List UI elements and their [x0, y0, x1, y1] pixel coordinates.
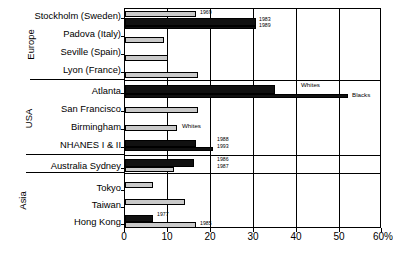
gridline-30 [253, 9, 254, 227]
bar-atlanta-whites [125, 85, 275, 94]
category-label-hong-kong: Hong Kong [74, 217, 121, 227]
annotation-birmingham-whites: Whites [182, 123, 201, 129]
bar-stockholm-1983 [125, 18, 256, 26]
bar-sydney-1987 [125, 167, 174, 172]
bar-tokyo [125, 182, 153, 188]
xtick-label-40: 40 [290, 231, 301, 242]
group-label-usa: USA [23, 84, 34, 154]
xtick-label-50: 50 [333, 231, 344, 242]
group-label-europe: Europe [25, 5, 36, 85]
bar-stockholm-1969 [125, 11, 196, 17]
annotation-stockholm-1969: 1969 [200, 10, 212, 16]
bar-taiwan [125, 199, 185, 205]
category-label-tokyo: Tokyo [97, 183, 122, 193]
bar-hong-kong-1985 [125, 222, 196, 228]
plot-separator-europe-usa [125, 80, 380, 81]
bar-chart: Stockholm (Sweden) Padova (Italy) Sevill… [0, 0, 393, 260]
gridline-50 [339, 9, 340, 227]
xtick-label-0: 0 [121, 231, 127, 242]
group-label-asia: Asia [17, 166, 28, 236]
bar-atlanta-blacks [125, 94, 348, 98]
gridline-20 [210, 9, 211, 227]
bar-sydney-1986 [125, 159, 194, 167]
bar-hong-kong-1977 [125, 215, 153, 222]
plot-separator-usa-sydney [125, 155, 380, 156]
category-label-birmingham: Birmingham [71, 122, 121, 132]
annotation-nhanes-1988: 1988 [217, 137, 229, 143]
xtick-label-30: 30 [247, 231, 258, 242]
gridline-40 [296, 9, 297, 227]
annotation-sydney-1986: 1986 [217, 157, 229, 163]
group-separator-sydney-asia [26, 172, 124, 173]
bar-seville [125, 55, 168, 61]
bar-nhanes-1988 [125, 140, 196, 147]
annotation-atlanta-blacks: Blacks [352, 92, 370, 98]
bar-nhanes-1993 [125, 147, 213, 151]
category-label-lyon: Lyon (France) [63, 65, 121, 75]
plot-area: 1969 1983 1989 Whites Blacks Whites 1988… [124, 8, 381, 228]
bar-stockholm-1989 [125, 26, 256, 29]
bar-birmingham-whites [125, 125, 177, 131]
category-label-san-francisco: San Francisco [61, 104, 121, 114]
annotation-sydney-1987: 1987 [217, 164, 229, 170]
category-label-stockholm: Stockholm (Sweden) [35, 11, 122, 21]
category-label-australia-sydney: Australia Sydney [51, 161, 121, 171]
annotation-atlanta-whites: Whites [301, 82, 320, 88]
bar-san-francisco [125, 107, 198, 113]
xtick-label-60: 60% [373, 231, 393, 242]
gridline-10 [167, 9, 168, 227]
category-label-taiwan: Taiwan [92, 200, 121, 210]
bar-lyon [125, 72, 198, 78]
annotation-hong-kong-1985: 1985 [200, 221, 212, 227]
group-separator-europe-usa [30, 79, 124, 80]
category-label-nhanes: NHANES I & II [60, 140, 121, 150]
xtick-label-20: 20 [204, 231, 215, 242]
category-label-atlanta: Atlanta [92, 86, 121, 96]
annotation-nhanes-1993: 1993 [217, 144, 229, 150]
annotation-stockholm-1989: 1989 [259, 23, 271, 29]
category-label-padova: Padova (Italy) [63, 29, 121, 39]
bar-padova [125, 37, 164, 43]
annotation-hong-kong-1977: 1977 [157, 212, 169, 218]
group-separator-usa-sydney [26, 154, 124, 155]
plot-separator-sydney-asia [125, 173, 380, 174]
category-label-seville: Seville (Spain) [61, 47, 121, 57]
xtick-label-10: 10 [161, 231, 172, 242]
